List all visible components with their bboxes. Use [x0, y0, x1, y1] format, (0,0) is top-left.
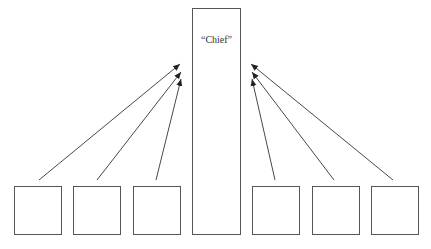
arrow-2: [97, 72, 181, 180]
arrow-3: [156, 79, 181, 180]
arrow-6: [251, 64, 393, 180]
arrow-4: [252, 79, 275, 180]
arrows-layer: [0, 0, 431, 249]
arrow-1: [39, 64, 180, 180]
arrow-5: [252, 72, 334, 180]
